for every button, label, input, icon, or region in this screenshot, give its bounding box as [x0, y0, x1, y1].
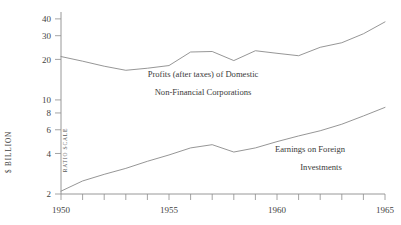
y-tick-label: 4 [47, 149, 52, 159]
y-tick-label: 2 [47, 189, 52, 199]
x-tick-group: 1950195519601965 [52, 194, 395, 215]
x-tick-label: 1955 [160, 205, 179, 215]
series-label-foreign-earnings-line2: Investments [300, 162, 342, 172]
y-tick-group: 246810203040 [42, 14, 61, 199]
x-tick-label: 1965 [376, 205, 395, 215]
y-axis-title: $ BILLION [5, 131, 13, 173]
series-line-profits [61, 22, 385, 70]
y-tick-label: 6 [47, 125, 52, 135]
y-tick-label: 20 [42, 55, 52, 65]
x-tick-label: 1960 [268, 205, 287, 215]
ratio-scale-note: RATIO SCALE [62, 128, 68, 172]
chart-container: 246810203040 1950195519601965 Profits (a… [0, 0, 401, 225]
y-tick-label: 10 [42, 95, 52, 105]
y-tick-label: 40 [42, 14, 52, 24]
y-tick-label: 30 [42, 31, 52, 41]
series-label-foreign-earnings-line1: Earnings on Foreign [275, 144, 346, 154]
x-tick-label: 1950 [52, 205, 71, 215]
series-label-profits-line2: Non-Financial Corporations [155, 87, 252, 97]
line-chart: 246810203040 1950195519601965 Profits (a… [0, 0, 401, 225]
series-label-profits-line1: Profits (after taxes) of Domestic [148, 69, 259, 79]
y-tick-label: 8 [47, 108, 52, 118]
